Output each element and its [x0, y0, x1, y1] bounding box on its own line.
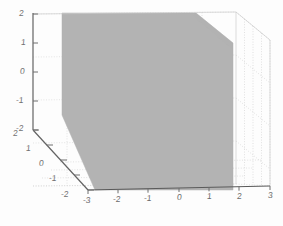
y-tick-label-0: 0 [39, 159, 44, 168]
x-tick-label-minus-2: -2 [113, 195, 121, 204]
x-tick-label-3: 3 [268, 191, 273, 200]
z-tick-label-2: 2 [19, 9, 24, 18]
x-tick-label-minus-3: -3 [83, 196, 91, 205]
z-tick-label-1: 1 [21, 38, 26, 47]
y-tick-label-minus-1: -1 [49, 174, 57, 183]
x-tick-label-2: 2 [237, 192, 242, 201]
y-tick-label-minus-2: -2 [61, 190, 69, 199]
x-tick-label-minus-1: -1 [144, 194, 152, 203]
y-tick-label-1: 1 [26, 144, 31, 153]
z-tick-label-minus-1: -1 [16, 96, 24, 105]
z-axis-ticks [33, 14, 38, 130]
figure-canvas: 2 1 0 -1 -2 2 1 0 -1 -2 -3 -2 -1 0 1 2 [0, 0, 283, 226]
x-tick-label-1: 1 [207, 192, 212, 201]
z-tick-label-0: 0 [20, 67, 25, 76]
x-tick-label-0: 0 [177, 193, 182, 202]
y-tick-label-2: 2 [13, 129, 18, 138]
surface-patch [62, 13, 233, 190]
